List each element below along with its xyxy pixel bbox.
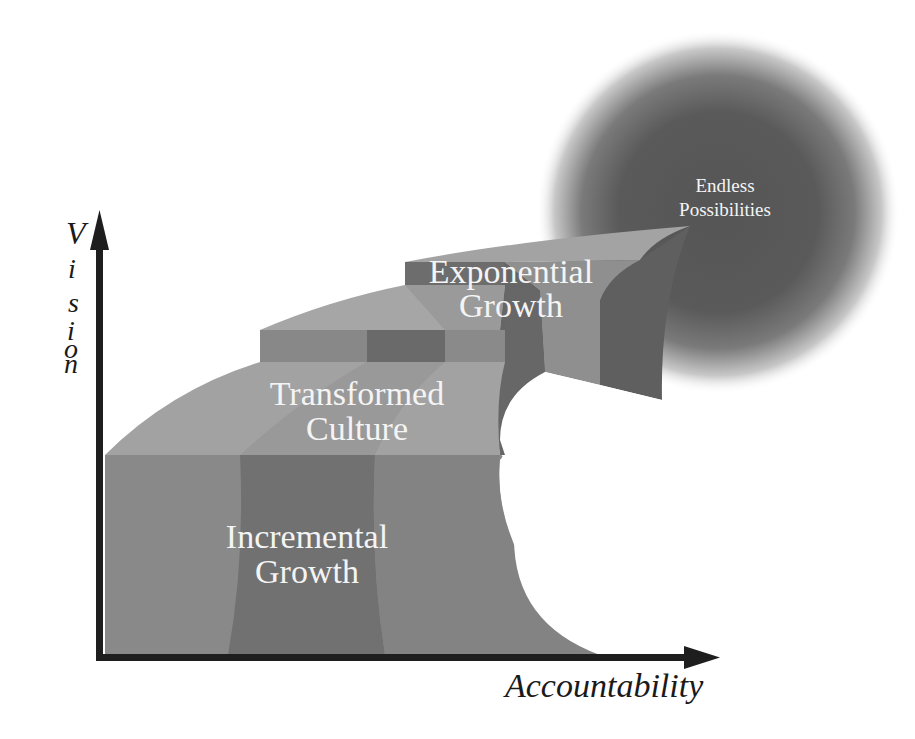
svg-text:i: i xyxy=(68,253,76,284)
svg-text:Transformed: Transformed xyxy=(270,375,444,412)
svg-text:Exponential: Exponential xyxy=(429,253,593,290)
svg-text:Growth: Growth xyxy=(255,553,359,590)
svg-text:Endless: Endless xyxy=(695,175,754,196)
svg-text:V: V xyxy=(66,215,89,251)
svg-text:Incremental: Incremental xyxy=(226,518,388,555)
white-cutout xyxy=(514,372,760,655)
x-axis-label: Accountability xyxy=(503,667,704,704)
svg-text:Growth: Growth xyxy=(459,287,563,324)
svg-text:Culture: Culture xyxy=(306,410,408,447)
y-axis-label: V i s i o n xyxy=(64,215,89,379)
svg-text:s: s xyxy=(68,287,79,318)
diagram-canvas: V i s i o n Accountability Incremental G… xyxy=(0,0,915,739)
svg-text:Possibilities: Possibilities xyxy=(679,199,771,220)
svg-text:n: n xyxy=(64,348,78,379)
